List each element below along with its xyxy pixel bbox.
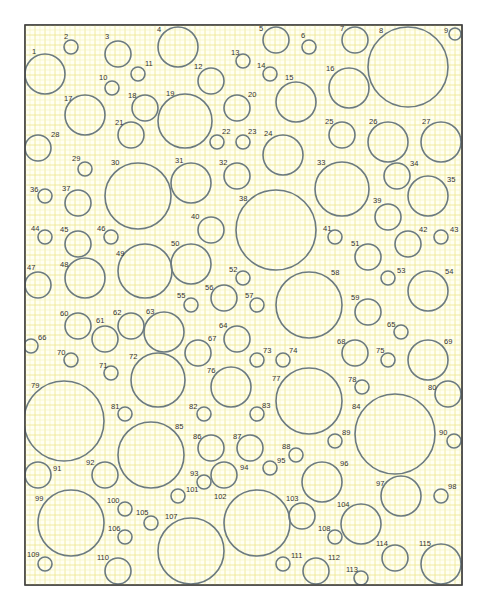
circle-label: 100	[107, 496, 120, 505]
circle-label: 35	[447, 175, 455, 184]
circle-label: 60	[60, 309, 68, 318]
circle-label: 80	[428, 383, 436, 392]
circle-label: 79	[31, 381, 39, 390]
circle-label: 92	[86, 458, 94, 467]
circle-label: 77	[272, 374, 280, 383]
circle-label: 12	[194, 62, 202, 71]
circle-label: 67	[208, 334, 216, 343]
circle-label: 62	[113, 308, 121, 317]
circle-label: 3	[105, 32, 109, 41]
circle-label: 9	[444, 26, 448, 35]
circle-label: 58	[331, 268, 339, 277]
circle-label: 97	[376, 479, 384, 488]
circle-label: 45	[60, 225, 68, 234]
circle-label: 83	[262, 401, 270, 410]
circle-label: 14	[257, 61, 265, 70]
circle-label: 26	[369, 117, 377, 126]
circle-label: 6	[301, 31, 305, 40]
circle-label: 70	[57, 348, 65, 357]
circle-label: 81	[111, 402, 119, 411]
circle-label: 107	[165, 512, 178, 521]
circle-label: 23	[248, 127, 256, 136]
circle-label: 73	[263, 346, 271, 355]
circle-label: 8	[379, 26, 383, 35]
circle-label: 43	[450, 225, 458, 234]
circle-label: 65	[387, 320, 395, 329]
circle-label: 27	[422, 117, 430, 126]
circle-label: 29	[72, 154, 80, 163]
circle-label: 34	[410, 159, 418, 168]
circle-label: 40	[191, 212, 199, 221]
circle-label: 94	[240, 463, 248, 472]
circle-label: 86	[193, 432, 201, 441]
circle-label: 37	[62, 184, 70, 193]
circle-label: 57	[245, 291, 253, 300]
circle-label: 18	[128, 91, 136, 100]
circle-label: 90	[439, 428, 447, 437]
circle-label: 47	[27, 263, 35, 272]
circle-label: 13	[231, 48, 239, 57]
circle-label: 24	[264, 129, 272, 138]
circle-label: 15	[285, 73, 293, 82]
circle-label: 110	[97, 553, 109, 562]
circle-label: 11	[145, 59, 153, 68]
circle-label: 108	[318, 524, 331, 533]
circle-label: 20	[248, 90, 256, 99]
circle-label: 75	[376, 346, 384, 355]
circle-label: 72	[129, 352, 137, 361]
circle-label: 103	[286, 494, 299, 503]
circle-label: 55	[177, 291, 185, 300]
circle-label: 93	[190, 469, 198, 478]
circle-label: 46	[97, 224, 105, 233]
circle-label: 10	[99, 73, 107, 82]
circle-label: 50	[171, 239, 179, 248]
circle-label: 113	[346, 565, 358, 574]
circle-label: 74	[289, 346, 297, 355]
circle-label: 28	[51, 130, 59, 139]
circle-label: 53	[397, 266, 405, 275]
circle-label: 1	[32, 47, 36, 56]
circle-label: 104	[337, 500, 350, 509]
circle-label: 99	[35, 494, 43, 503]
circle-label: 64	[219, 321, 227, 330]
circle-label: 32	[219, 158, 227, 167]
circle-label: 17	[64, 94, 72, 103]
circle-label: 51	[351, 239, 359, 248]
circle-label: 31	[175, 156, 183, 165]
circle-label: 106	[108, 524, 121, 533]
circle-label: 52	[229, 265, 237, 274]
circle-label: 88	[282, 442, 290, 451]
circle-label: 19	[166, 89, 174, 98]
circle-label: 59	[351, 293, 359, 302]
circle-label: 89	[342, 428, 350, 437]
circle-label: 76	[207, 366, 215, 375]
circle-label: 22	[222, 127, 230, 136]
circle-label: 98	[448, 482, 456, 491]
circle-grid-diagram: 1234567891011121314151617181920212223242…	[0, 0, 488, 607]
circle-label: 38	[239, 194, 247, 203]
circle-label: 112	[328, 553, 340, 562]
circle-label: 68	[337, 337, 345, 346]
circle-label: 21	[115, 118, 123, 127]
circle-label: 114	[376, 539, 388, 548]
circle-label: 61	[96, 316, 104, 325]
circle-label: 56	[205, 283, 213, 292]
circle-label: 4	[157, 25, 161, 34]
circle-label: 102	[214, 492, 227, 501]
circle-label: 69	[444, 337, 452, 346]
circle-label: 66	[38, 333, 46, 342]
circle-label: 41	[323, 224, 331, 233]
circle-label: 63	[146, 307, 154, 316]
circle-label: 95	[277, 456, 285, 465]
circle-label: 42	[419, 225, 427, 234]
circle-label: 84	[352, 402, 360, 411]
circle-label: 36	[30, 185, 38, 194]
circle-label: 82	[189, 402, 197, 411]
circle-label: 101	[186, 485, 199, 494]
circle-label: 115	[419, 539, 431, 548]
circle-label: 16	[326, 64, 334, 73]
circle-label: 33	[317, 158, 325, 167]
circle-label: 48	[60, 260, 68, 269]
circle-label: 39	[373, 196, 381, 205]
circle-label: 2	[64, 32, 68, 41]
